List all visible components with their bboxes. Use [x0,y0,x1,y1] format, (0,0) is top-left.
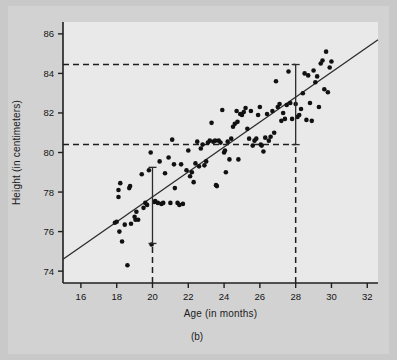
x-tick-label-32: 32 [362,291,373,302]
data-point [184,168,189,173]
x-tick-label-26: 26 [255,291,266,302]
data-point [243,106,248,111]
data-point [218,140,223,145]
data-point [170,137,175,142]
data-point [128,184,133,189]
data-point [186,148,191,153]
data-point [134,210,139,215]
data-point [116,195,121,200]
data-point [326,90,331,95]
data-point [173,186,178,191]
x-tick-label-18: 18 [111,291,122,302]
data-point [324,49,329,54]
data-point [329,59,334,64]
x-tick-label-16: 16 [76,291,87,302]
data-point [249,109,254,114]
data-point [272,130,277,135]
data-point [157,159,162,164]
data-point [301,91,306,96]
y-tick-label-74: 74 [43,266,54,277]
data-point [263,135,268,140]
data-point [114,219,119,224]
data-point [190,170,195,175]
data-point [224,170,229,175]
data-point [313,80,318,85]
x-axis-title: Age (in months) [184,308,258,319]
data-point [317,105,322,110]
data-point [220,108,225,113]
data-point [297,113,302,118]
data-point [241,110,246,115]
data-point [117,229,122,234]
y-axis-title: Height (in centimeters) [11,100,22,205]
scatter-plot: 16182022242628303274767880828486Age (in … [0,0,397,360]
data-point [247,136,252,141]
data-point [265,112,270,117]
x-tick-label-24: 24 [219,291,230,302]
data-point [181,202,186,207]
y-tick-label-84: 84 [43,68,54,79]
data-point [327,65,332,70]
data-point [166,155,171,160]
data-point [245,126,250,131]
data-point [270,109,275,114]
data-point [120,239,125,244]
data-point [320,58,325,63]
data-point [147,168,152,173]
data-point [259,143,264,148]
data-point [286,69,291,74]
data-point [304,118,309,123]
data-point [148,150,153,155]
figure-caption: (b) [191,331,203,342]
data-point [161,201,166,206]
data-point [274,79,279,84]
x-tick-label-20: 20 [147,291,158,302]
x-tick-label-30: 30 [326,291,337,302]
data-point [283,117,288,122]
data-point [199,146,204,151]
data-point [261,149,266,154]
data-point [209,121,214,126]
data-point [311,68,316,73]
data-point [290,117,295,122]
data-point [116,188,121,193]
data-point [288,101,293,106]
data-point [299,107,304,112]
data-point [254,136,259,141]
data-point [191,180,196,185]
data-point [179,162,184,167]
data-point [188,174,193,179]
y-tick-label-80: 80 [43,147,54,158]
data-point [223,148,228,153]
y-tick-label-86: 86 [43,28,54,39]
data-point [306,73,311,78]
data-point [258,105,263,110]
data-point [268,134,273,139]
data-point [141,206,146,211]
data-point [204,159,209,164]
data-point [322,87,327,92]
figure-panel: 16182022242628303274767880828486Age (in … [0,0,397,360]
x-tick-label-22: 22 [183,291,194,302]
data-point [139,172,144,177]
data-point [234,109,239,114]
data-point [225,139,230,144]
data-point [168,201,173,206]
data-point [277,102,282,107]
data-point [281,111,286,116]
data-point [195,139,200,144]
y-tick-label-76: 76 [43,226,54,237]
data-point [236,157,241,162]
data-point [309,119,314,124]
data-point [200,142,205,147]
data-point [235,120,240,125]
data-point [118,181,123,186]
data-point [129,221,134,226]
data-point [202,163,207,168]
y-tick-label-78: 78 [43,187,54,198]
data-point [256,113,261,118]
data-point [227,157,232,162]
data-point [267,138,272,143]
data-point [193,161,198,166]
data-point [172,162,177,167]
